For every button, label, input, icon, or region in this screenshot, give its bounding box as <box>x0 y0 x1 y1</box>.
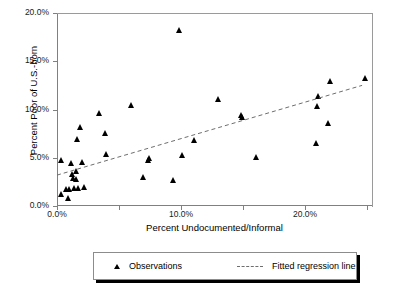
legend-label-observations: Observations <box>129 261 182 271</box>
triangle-marker-icon <box>114 264 120 269</box>
chart-legend: Observations Fitted regression line <box>93 252 357 280</box>
plot-right-border <box>372 13 373 207</box>
x-axis-tick-label: 20.0% <box>283 210 327 219</box>
fitted-regression-line <box>57 13 372 206</box>
y-axis-title: Percent Poor of U.S.-born <box>28 11 39 191</box>
legend-entry-observations: Observations <box>114 261 182 271</box>
legend-label-fitted-line: Fitted regression line <box>272 261 356 271</box>
legend-entry-fitted-line: Fitted regression line <box>237 261 356 271</box>
x-axis-tick-label: 10.0% <box>159 210 203 219</box>
y-axis-tick-label: 0.0% <box>5 201 49 210</box>
scatter-plot-figure: 0.0%5.0%10.0%15.0%20.0% 0.0%10.0%20.0% P… <box>0 0 413 291</box>
x-axis-tick <box>243 206 244 210</box>
x-axis-tick <box>367 206 368 210</box>
dashed-line-icon <box>237 266 263 267</box>
x-axis-title: Percent Undocumented/Informal <box>57 222 372 233</box>
x-axis-tick <box>119 206 120 210</box>
legend-items: Observations Fitted regression line <box>94 253 356 279</box>
x-axis-tick-label: 0.0% <box>35 210 79 219</box>
